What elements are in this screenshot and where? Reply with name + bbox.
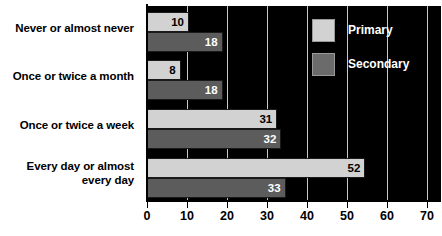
tick-label-0: 0: [144, 209, 151, 223]
plot-area: 10 18 8 18 31 32 52: [147, 6, 441, 200]
bar-value-primary-never: 10: [171, 16, 184, 28]
bar-value-primary-monthly: 8: [169, 64, 175, 76]
category-axis: Never or almost never Once or twice a mo…: [0, 6, 140, 200]
bar-secondary-daily[interactable]: 33: [147, 178, 286, 198]
tick-mark-30: [267, 202, 268, 208]
bar-primary-monthly[interactable]: 8: [147, 60, 181, 80]
legend-label-secondary: Secondary: [348, 57, 409, 71]
tick-label-10: 10: [180, 209, 194, 223]
category-label-line2: every day: [0, 174, 134, 188]
tick-mark-0: [147, 202, 148, 208]
tick-mark-10: [187, 202, 188, 208]
legend-label-primary: Primary: [348, 23, 393, 37]
legend-item-secondary[interactable]: Secondary: [312, 50, 441, 80]
bar-chart: Never or almost never Once or twice a mo…: [0, 0, 442, 236]
bar-secondary-weekly[interactable]: 32: [147, 129, 281, 149]
tick-mark-50: [347, 202, 348, 208]
tick-label-60: 60: [380, 209, 394, 223]
bar-primary-weekly[interactable]: 31: [147, 109, 277, 129]
x-axis: 0 10 20 30 40 50 60 70: [147, 202, 441, 236]
bar-primary-daily[interactable]: 52: [147, 158, 365, 178]
legend-swatch-secondary-icon: [312, 53, 335, 76]
bar-value-secondary-weekly: 32: [264, 133, 277, 145]
tick-mark-60: [387, 202, 388, 208]
category-label-weekly: Once or twice a week: [0, 119, 134, 133]
bar-primary-never[interactable]: 10: [147, 12, 189, 32]
y-axis-line: [146, 4, 148, 202]
tick-mark-40: [307, 202, 308, 208]
category-label-monthly: Once or twice a month: [0, 70, 134, 84]
legend: Primary Secondary: [312, 12, 441, 84]
bar-value-primary-daily: 52: [348, 162, 361, 174]
category-label-line1: Every day or almost: [0, 160, 134, 174]
tick-label-50: 50: [340, 209, 354, 223]
tick-label-40: 40: [300, 209, 314, 223]
bar-value-secondary-daily: 33: [268, 182, 281, 194]
category-label-line1: Once or twice a week: [20, 119, 134, 131]
category-label-daily: Every day or almost every day: [0, 160, 134, 187]
category-label-line1: Never or almost never: [15, 22, 134, 34]
category-label-never: Never or almost never: [0, 22, 134, 36]
bar-secondary-never[interactable]: 18: [147, 32, 223, 52]
legend-item-primary[interactable]: Primary: [312, 16, 441, 46]
legend-swatch-primary-icon: [312, 19, 335, 42]
bar-value-secondary-never: 18: [205, 36, 218, 48]
tick-label-20: 20: [220, 209, 234, 223]
category-label-line1: Once or twice a month: [13, 70, 134, 82]
bar-value-secondary-monthly: 18: [205, 84, 218, 96]
tick-mark-20: [227, 202, 228, 208]
bar-value-primary-weekly: 31: [259, 113, 272, 125]
tick-label-30: 30: [260, 209, 274, 223]
bar-secondary-monthly[interactable]: 18: [147, 80, 223, 100]
tick-label-70: 70: [420, 209, 434, 223]
tick-mark-70: [427, 202, 428, 208]
